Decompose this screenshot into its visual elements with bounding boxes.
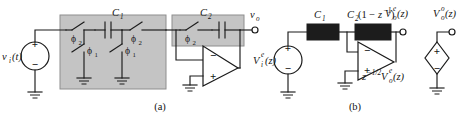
impedance-block-c2 (355, 24, 391, 40)
ground-source-b (281, 92, 295, 98)
input-source-z-label-sub: i (261, 61, 263, 69)
dependent-source-minus-sign: − (434, 62, 440, 74)
input-source-label-sub: i (9, 57, 11, 65)
impedance-c1-label-sub: 1 (322, 15, 326, 23)
input-source-z-label-tail: (z) (265, 55, 277, 67)
source-z-minus-sign: − (285, 62, 291, 74)
shaded-region-1 (60, 15, 166, 89)
impedance-c2-label-base: C (347, 9, 355, 20)
ground-source (28, 92, 42, 98)
input-source-z-label-main: V (253, 55, 261, 66)
dependent-source-plus-sign: + (434, 45, 440, 57)
panel-a: + − v i (t) ϕ 2 (2, 7, 260, 113)
opamp-output-expression: z −1/2 V o e (z) (361, 67, 405, 85)
capacitor-c2-label-sub: 2 (208, 13, 212, 21)
switch-phase-3-symbol: ϕ (125, 45, 130, 56)
output-label-vo-odd-tail: (z) (445, 8, 457, 20)
input-source-label-tail: (t) (12, 51, 22, 63)
capacitor-c2-label-main: C (200, 7, 208, 18)
output-label-a: v o (250, 9, 260, 23)
switch-phase-5-sub: 2 (193, 39, 197, 46)
switch-phase-4-sub: 2 (139, 39, 143, 46)
switch-phase-5-symbol: ϕ (185, 33, 190, 44)
switch-phase-2-sub: 1 (95, 51, 98, 58)
output-label-vo-even: V o e (z) (385, 5, 409, 22)
output-label-vo-odd-main: V (433, 8, 441, 19)
opamp-output-expr-exp: −1/2 (367, 69, 381, 77)
ground-dependent-source (430, 88, 444, 94)
output-label-a-main: v (250, 9, 255, 20)
output-label-vo-even-tail: (z) (397, 8, 409, 20)
capacitor-c1-label-main: C (112, 7, 120, 18)
opamp-output-expr-tail: (z) (393, 71, 405, 83)
opamp-b-minus-input: − (364, 44, 370, 56)
impedance-block-c1 (307, 24, 339, 40)
capacitor-c1-label-sub: 1 (120, 13, 124, 21)
opamp-output-expr-prefix: z (361, 71, 366, 82)
opamp-output-expr-v: V (381, 71, 389, 82)
impedance-c2-label-z: z (377, 9, 382, 20)
ground-opamp-a (183, 85, 197, 91)
impedance-c2-label-open: (1 − (358, 9, 375, 21)
input-source-label: v i (t) (2, 51, 22, 65)
impedance-c1-label: C 1 (314, 9, 326, 23)
output-terminal-vo-odd (449, 29, 455, 35)
source-minus-sign: − (32, 58, 38, 70)
input-source-label-main: v (2, 51, 7, 62)
switch-phase-1-symbol: ϕ (71, 33, 76, 44)
output-terminal-a (252, 27, 258, 33)
output-terminal-vo-even (400, 29, 406, 35)
opamp-a-minus-input: − (210, 49, 216, 61)
switch-phase-4-symbol: ϕ (131, 33, 136, 44)
impedance-c1-label-main: C (314, 9, 322, 20)
circuit-figure: + − v i (t) ϕ 2 (0, 0, 463, 118)
ground-opamp-b (338, 83, 352, 89)
output-label-a-sub: o (256, 15, 260, 23)
input-source-z-label: V i e (z) (253, 51, 277, 69)
output-label-vo-odd: V o o (z) (433, 5, 457, 22)
caption-b: (b) (349, 101, 362, 113)
switch-phase-3-sub: 1 (133, 51, 136, 58)
panel-b: + − V i e (z) C 1 (253, 5, 457, 113)
opamp-a-plus-input: + (210, 70, 216, 82)
opamp-a (203, 46, 238, 86)
caption-a: (a) (154, 101, 166, 113)
switch-phase-2-symbol: ϕ (87, 45, 92, 56)
